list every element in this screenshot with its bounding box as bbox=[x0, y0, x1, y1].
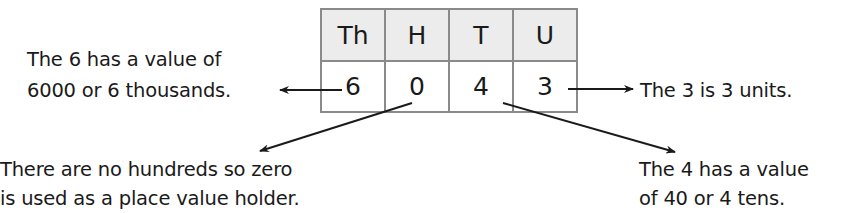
arrow-hundreds bbox=[260, 103, 412, 151]
arrows-layer bbox=[0, 0, 857, 213]
arrow-tens bbox=[503, 103, 675, 152]
